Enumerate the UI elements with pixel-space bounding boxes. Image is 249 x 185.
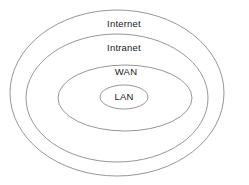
diagram-canvas: Internet Intranet WAN LAN — [0, 0, 249, 185]
ring-label-internet: Internet — [107, 18, 141, 29]
ring-label-lan: LAN — [114, 91, 133, 102]
ring-label-intranet: Intranet — [107, 42, 141, 53]
ring-label-wan: WAN — [115, 66, 137, 77]
network-scope-diagram: Internet Intranet WAN LAN — [0, 0, 249, 185]
